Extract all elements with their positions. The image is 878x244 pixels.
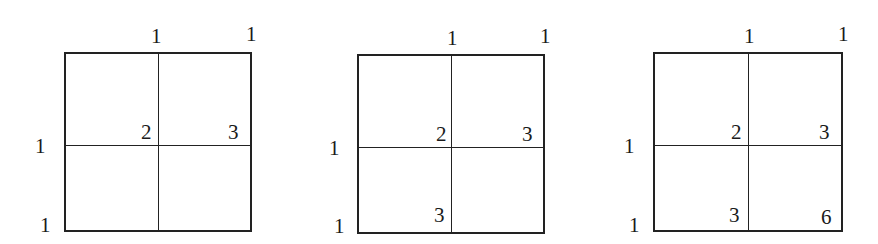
left-label-mid: 1 (624, 136, 635, 157)
top-label-mid: 1 (744, 26, 755, 47)
left-label-bottom: 1 (40, 215, 51, 236)
horizontal-divider (359, 147, 543, 148)
top-label-mid: 1 (447, 28, 458, 49)
top-label-right: 1 (540, 26, 551, 47)
top-label-mid: 1 (151, 26, 162, 47)
left-label-bottom: 1 (629, 215, 640, 236)
value-bottom-right: 6 (821, 207, 832, 228)
grid-box (357, 54, 545, 234)
grid-box (653, 52, 843, 232)
left-label-mid: 1 (35, 136, 46, 157)
vertical-divider (451, 56, 452, 232)
vertical-divider (748, 54, 749, 230)
value-bottom-mid: 3 (434, 205, 445, 226)
vertical-divider (158, 54, 159, 230)
left-label-mid: 1 (329, 138, 340, 159)
value-right-mid: 3 (228, 122, 239, 143)
value-center: 2 (436, 124, 447, 145)
top-label-right: 1 (246, 24, 257, 45)
value-center: 2 (141, 122, 152, 143)
value-right-mid: 3 (819, 122, 830, 143)
top-label-right: 1 (838, 24, 849, 45)
value-right-mid: 3 (522, 124, 533, 145)
grid-box (64, 52, 252, 232)
value-center: 2 (731, 122, 742, 143)
left-label-bottom: 1 (334, 216, 345, 237)
horizontal-divider (66, 145, 250, 146)
horizontal-divider (655, 145, 841, 146)
value-bottom-mid: 3 (729, 205, 740, 226)
